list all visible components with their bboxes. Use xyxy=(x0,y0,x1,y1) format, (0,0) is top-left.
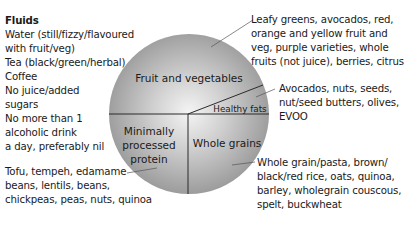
segment-label-whole-grains: Whole grains xyxy=(193,137,262,149)
healthy-fats-callout-line: nut/seed butters, olives, xyxy=(279,96,399,110)
segment-label-healthy-fats: Healthy fats xyxy=(213,104,267,114)
fluids-line: Water (still/fizzy/flavoured xyxy=(5,28,134,42)
whole-grains-callout-line: black/red rice, oats, quinoa, xyxy=(257,170,395,184)
fruit-veg-callout-line: orange and yellow fruit and xyxy=(251,27,388,41)
fruit-veg-callout-line: Leafy greens, avocados, red, xyxy=(251,13,393,27)
whole-grains-callout-line: Whole grain/pasta, brown/ xyxy=(257,156,388,170)
fruit-veg-callout-line: veg, purple varieties, whole xyxy=(251,41,389,55)
segment-label-protein-3: protein xyxy=(130,153,167,165)
fluids-line: with fruit/veg) xyxy=(5,42,75,56)
healthy-fats-callout-line: EVOO xyxy=(279,110,308,124)
segment-label-fruit-veg: Fruit and vegetables xyxy=(135,72,243,84)
fluids-line: a day, preferably nil xyxy=(5,140,104,154)
fruit-veg-callout-line: fruits (not juice), berries, citrus xyxy=(251,55,404,69)
segment-label-protein-2: processed xyxy=(122,139,175,151)
whole-grains-callout-line: barley, wholegrain couscous, xyxy=(257,184,401,198)
healthy-fats-callout-line: Avocados, nuts, seeds, xyxy=(279,82,392,96)
fluids-line: Coffee xyxy=(5,70,37,84)
leader-fruit-veg xyxy=(211,20,253,47)
protein-callout-line: beans, lentils, beans, xyxy=(5,179,110,193)
fluids-line: alcoholic drink xyxy=(5,126,77,140)
segment-label-protein-1: Minimally xyxy=(124,125,174,137)
fluids-line: sugars xyxy=(5,98,38,112)
fluids-line: Tea (black/green/herbal) xyxy=(5,56,125,70)
fluids-line: No more than 1 xyxy=(5,112,83,126)
fluids-title: Fluids xyxy=(5,14,39,28)
fluids-line: No juice/added xyxy=(5,84,79,98)
protein-callout-line: chickpeas, peas, nuts, quinoa xyxy=(5,193,152,207)
whole-grains-callout-line: spelt, buckwheat xyxy=(257,198,342,212)
protein-callout-line: Tofu, tempeh, edamame xyxy=(5,165,126,179)
